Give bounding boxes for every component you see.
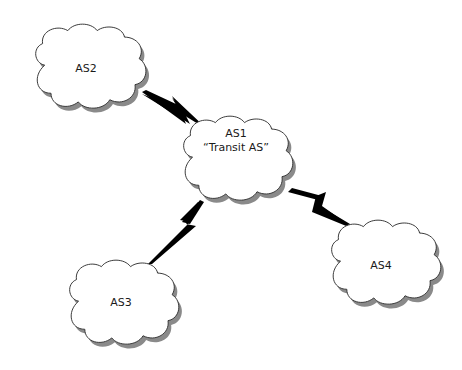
node-label-as1: AS1 (225, 127, 247, 141)
node-label-as3: AS3 (110, 296, 132, 310)
link-as1-as3 (148, 200, 204, 264)
node-sublabel-as1: “Transit AS” (203, 141, 269, 155)
link-as1-as4 (288, 188, 356, 230)
node-label-as2: AS2 (75, 62, 97, 76)
node-label-as4: AS4 (370, 259, 392, 273)
diagram-canvas (0, 0, 462, 370)
